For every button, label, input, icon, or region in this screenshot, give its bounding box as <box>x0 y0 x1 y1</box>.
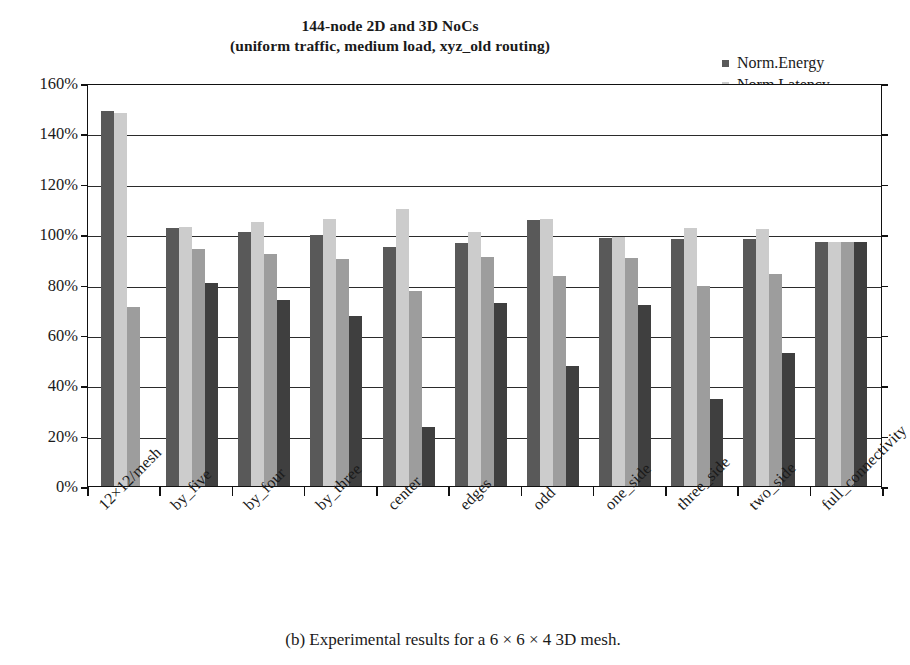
y-axis-tick-mark-right <box>881 235 888 237</box>
bar-group <box>232 85 304 486</box>
y-axis-tick-mark-right <box>881 134 888 136</box>
chart-title: 144-node 2D and 3D NoCs (uniform traffic… <box>110 16 670 56</box>
bar-group <box>737 85 809 486</box>
y-axis-tick-mark <box>81 437 88 439</box>
bar <box>671 239 684 486</box>
y-axis-tick-label: 120% <box>14 177 78 193</box>
bar-series-container <box>88 85 881 486</box>
bar <box>854 242 867 486</box>
y-axis-tick-label: 40% <box>14 378 78 394</box>
y-axis-tick-mark-right <box>881 185 888 187</box>
y-axis-tick-mark <box>81 185 88 187</box>
bar <box>336 259 349 486</box>
bar-group <box>448 85 520 486</box>
bar <box>264 254 277 486</box>
bar <box>527 220 540 486</box>
y-axis-tick-mark-right <box>881 386 888 388</box>
y-axis-tick-label: 60% <box>14 328 78 344</box>
bar <box>310 235 323 486</box>
bar-group <box>593 85 665 486</box>
bar <box>238 232 251 486</box>
bar <box>205 283 218 486</box>
y-axis-tick-label: 160% <box>14 76 78 92</box>
y-axis-tick-mark <box>81 336 88 338</box>
bar <box>553 276 566 486</box>
bar <box>828 242 841 486</box>
y-axis-tick-mark <box>81 84 88 86</box>
y-axis-tick-label: 140% <box>14 126 78 142</box>
bar <box>468 232 481 486</box>
y-axis-tick-mark-right <box>881 336 888 338</box>
bar <box>841 242 854 486</box>
bar <box>179 227 192 486</box>
legend-swatch-icon <box>722 60 729 67</box>
bar <box>815 242 828 486</box>
bar <box>625 258 638 486</box>
bar-group <box>160 85 232 486</box>
y-axis-tick-mark-right <box>881 286 888 288</box>
bar <box>684 228 697 486</box>
bar <box>612 237 625 486</box>
bar <box>481 257 494 486</box>
bar <box>192 249 205 486</box>
bar <box>409 291 422 486</box>
chart-title-line2: (uniform traffic, medium load, xyz_old r… <box>110 36 670 56</box>
legend-label: Norm.Energy <box>737 54 824 72</box>
bar <box>396 209 409 486</box>
bar-group <box>304 85 376 486</box>
bar <box>566 366 579 486</box>
bar <box>383 247 396 486</box>
bar <box>540 219 553 486</box>
bar-group <box>665 85 737 486</box>
bar-group <box>88 85 160 486</box>
y-axis-tick-label: 20% <box>14 429 78 445</box>
y-axis-tick-mark <box>81 286 88 288</box>
bar-group <box>521 85 593 486</box>
x-axis-tick-label: odd <box>529 484 559 514</box>
bar <box>251 222 264 486</box>
chart-title-line1: 144-node 2D and 3D NoCs <box>301 17 478 34</box>
legend-item: Norm.Energy <box>722 52 902 74</box>
x-axis-labels: 12×12/meshby_fiveby_fourby_threecentered… <box>0 487 906 617</box>
bar-group <box>376 85 448 486</box>
bar <box>422 427 435 486</box>
bar <box>455 243 468 486</box>
bar <box>101 111 114 486</box>
bar <box>494 303 507 486</box>
bar <box>769 274 782 486</box>
bar <box>743 239 756 486</box>
bar <box>166 228 179 486</box>
bar <box>697 286 710 486</box>
bar <box>323 219 336 486</box>
y-axis-tick-label: 80% <box>14 278 78 294</box>
bar <box>638 305 651 486</box>
bar <box>114 113 127 486</box>
y-axis-tick-mark <box>81 386 88 388</box>
y-axis-tick-mark-right <box>881 84 888 86</box>
bar <box>756 229 769 486</box>
bar-group <box>809 85 881 486</box>
bar <box>277 300 290 486</box>
figure-caption: (b) Experimental results for a 6 × 6 × 4… <box>0 630 906 650</box>
y-axis-tick-mark <box>81 134 88 136</box>
plot-area <box>87 84 882 487</box>
y-axis-tick-label: 100% <box>14 227 78 243</box>
bar <box>599 238 612 486</box>
y-axis-tick-mark <box>81 235 88 237</box>
